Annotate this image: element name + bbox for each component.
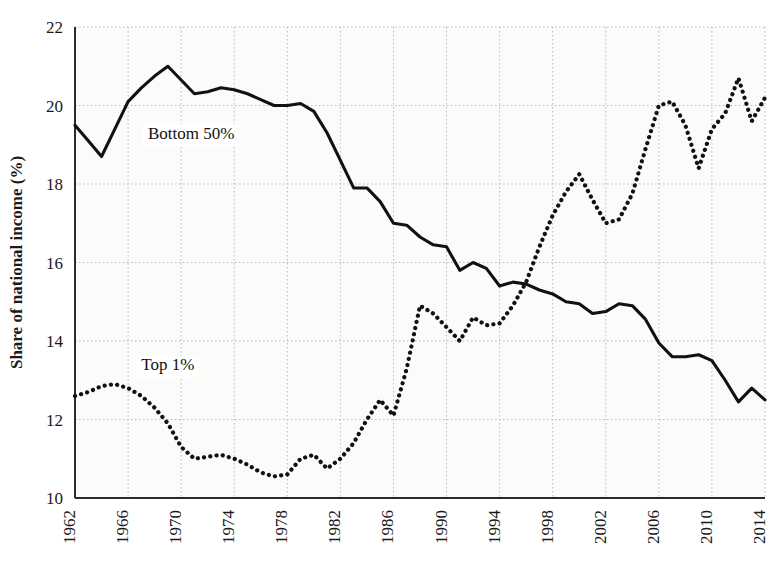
x-tick-label: 1962 [60, 510, 79, 544]
x-tick-labels: 1962196619701974197819821986199019941998… [60, 510, 769, 545]
y-tick-label: 14 [46, 332, 64, 351]
chart-figure: 1012141618202219621966197019741978198219… [0, 0, 783, 572]
x-tick-label: 1974 [219, 510, 238, 545]
x-tick-label: 1986 [378, 510, 397, 544]
x-tick-label: 1966 [113, 510, 132, 544]
x-tick-label: 2014 [750, 510, 769, 545]
y-tick-label: 12 [46, 411, 63, 430]
x-tick-label: 2010 [697, 510, 716, 544]
y-tick-label: 20 [46, 97, 63, 116]
y-tick-label: 16 [46, 254, 63, 273]
x-tick-label: 1994 [485, 510, 504, 545]
y-tick-label: 22 [46, 18, 63, 37]
x-tick-label: 2006 [644, 510, 663, 544]
series-label-bottom-50: Bottom 50% [148, 124, 234, 143]
y-axis-title: Share of national income (%) [7, 156, 26, 369]
y-tick-labels: 10121416182022 [46, 18, 64, 508]
y-tick-label: 18 [46, 175, 63, 194]
x-tick-label: 1998 [538, 510, 557, 544]
series-label-top-1: Top 1% [141, 355, 194, 374]
x-tick-label: 1970 [166, 510, 185, 544]
x-tick-label: 2002 [591, 510, 610, 544]
x-tick-label: 1990 [432, 510, 451, 544]
x-tick-label: 1978 [272, 510, 291, 544]
y-tick-label: 10 [46, 489, 63, 508]
x-tick-label: 1982 [325, 510, 344, 544]
income-share-line-chart: 1012141618202219621966197019741978198219… [0, 0, 783, 572]
